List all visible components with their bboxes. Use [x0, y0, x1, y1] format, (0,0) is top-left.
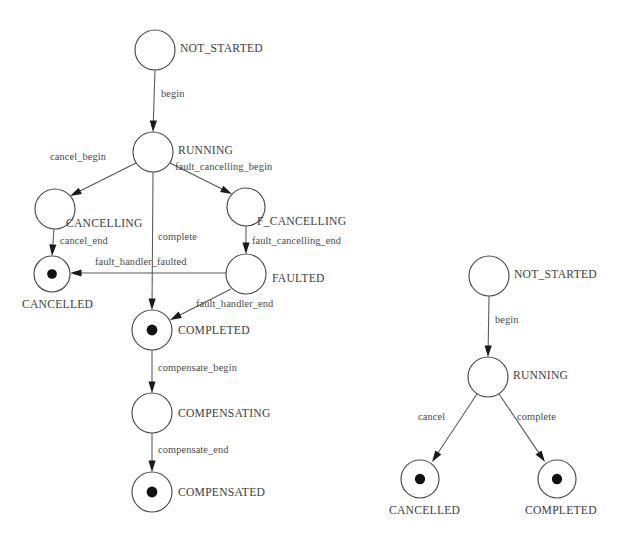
state-circle: [469, 256, 509, 296]
final-state-dot-icon: [147, 487, 158, 498]
state-label: COMPLETED: [525, 504, 597, 517]
state-label: COMPENSATING: [178, 407, 271, 420]
state-circle: [133, 132, 173, 172]
transition-label: begin: [495, 314, 519, 325]
state-circle: [135, 30, 175, 70]
final-state-dot-icon: [47, 269, 57, 279]
state-label: RUNNING: [513, 369, 569, 382]
transition-label: fault_cancelling_end: [252, 235, 342, 246]
state-label: FAULTED: [272, 272, 325, 285]
final-state-dot-icon: [415, 474, 425, 484]
final-state-dot-icon: [147, 325, 158, 336]
transition-label: begin: [161, 88, 185, 99]
state-circle: [132, 393, 172, 433]
transition-label: fault_handler_end: [196, 298, 274, 309]
transition-label: cancel_begin: [50, 151, 107, 162]
state-circle: [468, 357, 508, 397]
state-circle: [226, 254, 266, 294]
final-state-dot-icon: [552, 474, 562, 484]
transition-label: complete: [517, 411, 556, 422]
state-label: CANCELLED: [389, 504, 460, 517]
state-label: RUNNING: [178, 144, 234, 157]
transition-label: cancel_end: [60, 235, 108, 246]
state-label: CANCELLED: [22, 298, 93, 311]
transition-label: compensate_begin: [158, 362, 238, 373]
state-label: CANCELLING: [66, 217, 143, 230]
state-machine-diagram-canvas: begincancel_beginfault_cancelling_beginc…: [0, 0, 635, 540]
state-label: NOT_STARTED: [514, 268, 597, 281]
state-label: NOT_STARTED: [180, 42, 263, 55]
transition-label: complete: [158, 231, 197, 242]
transition-label: compensate_end: [158, 444, 229, 455]
transition-label: fault_cancelling_begin: [175, 161, 273, 172]
state-label: COMPENSATED: [178, 486, 265, 499]
state-label: F_CANCELLING: [257, 215, 347, 228]
transition-label: fault_handler_faulted: [95, 256, 187, 267]
transition-label: cancel: [418, 411, 445, 422]
state-label: COMPLETED: [178, 324, 250, 337]
